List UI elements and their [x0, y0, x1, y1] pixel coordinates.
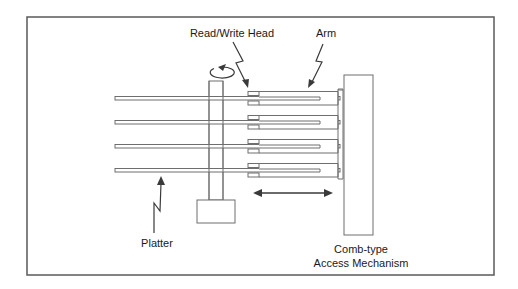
arm-4	[248, 164, 338, 178]
label-arm: Arm	[316, 27, 336, 40]
arm-3	[248, 140, 338, 154]
spindle-motor	[197, 200, 235, 223]
label-access-mechanism-line2: Access Mechanism	[314, 257, 409, 270]
label-read-write-head: Read/Write Head	[190, 27, 274, 40]
arm-2	[248, 116, 338, 130]
arms	[248, 89, 343, 179]
platter-pointer-icon	[154, 176, 165, 233]
label-platter: Platter	[141, 237, 173, 250]
disk-drive-diagram	[0, 0, 518, 289]
arm-pointer-icon	[308, 44, 323, 88]
spindle	[197, 81, 235, 223]
movement-double-arrow-icon	[253, 189, 333, 197]
label-access-mechanism-line1: Comb-type	[334, 243, 388, 256]
access-mechanism-block	[344, 75, 373, 235]
platters	[115, 97, 340, 173]
read-write-head-pointer-icon	[233, 42, 249, 88]
rotation-arrow-icon	[210, 64, 234, 78]
